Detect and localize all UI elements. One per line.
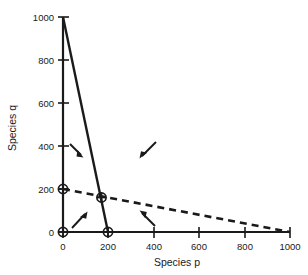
x-tick-label-400: 400 [146,241,162,252]
phase-plane-figure: 0 200 400 600 800 1000 0 200 400 600 800… [0,0,308,275]
arrow-upper-left [70,144,84,158]
chart-canvas: 0 200 400 600 800 1000 0 200 400 600 800… [0,0,308,275]
coexistence-equilibrium-marker [97,193,106,202]
x-axis-title: Species p [154,256,200,268]
y-axis-title: Species q [6,105,18,151]
y-tick-label-800: 800 [38,55,54,66]
y-tick-label-400: 400 [38,141,54,152]
origin-equilibrium-marker [58,227,67,236]
y-tick-label-1000: 1000 [33,12,54,23]
x-tick-label-200: 200 [100,241,116,252]
x-tick-label-800: 800 [237,241,253,252]
arrow-lower-left [72,212,88,229]
x-tick-label-0: 0 [60,241,65,252]
y-tick-label-200: 200 [38,184,54,195]
y-tick-label-0: 0 [49,227,54,238]
p-only-equilibrium-marker [103,227,112,236]
x-tick-label-600: 600 [191,241,207,252]
direction-arrows-group [70,142,156,228]
x-tick-label-1000: 1000 [279,241,300,252]
y-tick-label-600: 600 [38,98,54,109]
q-only-equilibrium-marker [58,184,67,193]
arrow-lower-right [140,211,156,227]
arrow-upper-right [140,142,157,159]
